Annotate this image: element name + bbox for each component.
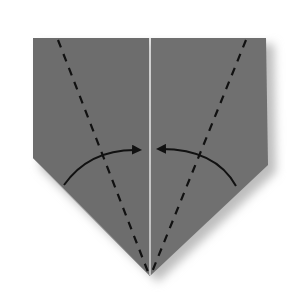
origami-diagram [0, 0, 299, 302]
paper-left-flap [33, 38, 150, 276]
paper-right-flap [150, 38, 268, 276]
